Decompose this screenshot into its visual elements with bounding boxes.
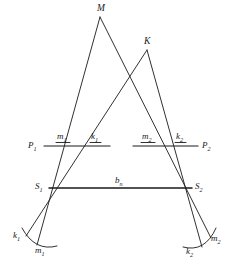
ray-k-to-s1 <box>26 50 147 236</box>
label-mark-k2: k2 <box>176 132 183 143</box>
ray-k-to-s2 <box>147 50 202 247</box>
label-arc-m1: m1 <box>35 246 45 257</box>
label-parallel-p1: P1 <box>28 141 37 152</box>
diagram-vector-layer <box>0 0 239 265</box>
diagram-canvas: M K S1 S2 bn P1 P2 m1 k1 m2 k2 k1 m1 m2 <box>0 0 239 265</box>
ray-m-to-s2 <box>100 17 211 238</box>
label-arc-k2: k2 <box>186 247 193 258</box>
label-arc-m2: m2 <box>211 234 221 245</box>
label-apex-m: M <box>97 4 105 14</box>
label-arc-k1: k1 <box>13 231 20 242</box>
label-mark-m1: m1 <box>57 132 67 143</box>
label-parallel-p2: P2 <box>202 141 211 152</box>
label-apex-k: K <box>144 37 150 47</box>
label-mark-m2: m2 <box>142 132 152 143</box>
label-baseline: bn <box>115 176 123 187</box>
label-station-s1: S1 <box>35 182 43 193</box>
label-mark-k1: k1 <box>91 132 98 143</box>
label-station-s2: S2 <box>195 182 203 193</box>
